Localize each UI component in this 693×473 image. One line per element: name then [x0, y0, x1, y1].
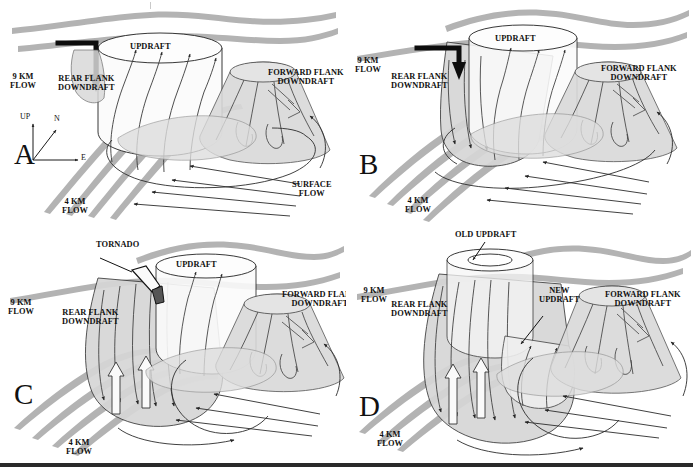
label-flow-4km: 4 KM FLOW	[377, 430, 403, 449]
panel-d: D OLD UPDRAFT NEW UPDRAFT REAR FLANK DOW…	[347, 228, 693, 458]
label-updraft: UPDRAFT	[130, 42, 171, 51]
panel-letter-b: B	[359, 150, 378, 179]
panel-letter-a: A	[14, 140, 35, 169]
label-rear-flank-downdraft: REAR FLANK DOWNDRAFT	[58, 74, 115, 93]
label-flow-9km: 9 KM FLOW	[361, 286, 387, 305]
figure-supercell-evolution: A UPDRAFT REAR FLANK DOWNDRAFT FORWARD F…	[0, 0, 693, 473]
label-flow-4km: 4 KM FLOW	[405, 196, 431, 215]
label-tornado: TORNADO	[96, 240, 139, 249]
label-forward-flank-downdraft: FORWARD FLANK DOWNDRAFT	[282, 290, 346, 309]
label-flow-9km: 9 KM FLOW	[355, 56, 381, 75]
label-flow-4km: 4 KM FLOW	[62, 197, 88, 216]
compass-label-north: N	[54, 114, 60, 123]
label-flow-4km: 4 KM FLOW	[66, 438, 92, 457]
compass-label-east: E	[81, 153, 86, 162]
label-old-updraft: OLD UPDRAFT	[455, 230, 516, 239]
label-flow-9km: 9 KM FLOW	[8, 298, 34, 317]
panel-letter-d: D	[359, 392, 380, 421]
label-forward-flank-downdraft: FORWARD FLANK DOWNDRAFT	[268, 68, 344, 87]
tornado-pointer	[100, 258, 132, 272]
label-new-updraft: NEW UPDRAFT	[539, 286, 580, 305]
label-rear-flank-downdraft: REAR FLANK DOWNDRAFT	[391, 72, 448, 91]
label-rear-flank-downdraft: REAR FLANK DOWNDRAFT	[62, 308, 119, 327]
panel-c-graphic	[0, 228, 346, 458]
compass-label-up: UP	[20, 112, 30, 121]
label-flow-9km: 9 KM FLOW	[10, 72, 36, 91]
panel-letter-c: C	[14, 380, 33, 409]
bottom-rule	[0, 463, 693, 467]
label-forward-flank-downdraft: FORWARD FLANK DOWNDRAFT	[601, 64, 677, 83]
label-rear-flank-downdraft: REAR FLANK DOWNDRAFT	[391, 300, 448, 319]
label-forward-flank-downdraft: FORWARD FLANK DOWNDRAFT	[605, 290, 681, 309]
panel-c: C TORNADO UPDRAFT REAR FLANK DOWNDRAFT F…	[0, 228, 346, 458]
compass-rose	[33, 124, 78, 160]
label-surface-flow: SURFACE FLOW	[292, 180, 332, 199]
panel-a: A UPDRAFT REAR FLANK DOWNDRAFT FORWARD F…	[0, 0, 346, 230]
panel-b: B UPDRAFT REAR FLANK DOWNDRAFT FORWARD F…	[347, 0, 693, 230]
panel-d-graphic	[347, 228, 693, 458]
label-updraft: UPDRAFT	[495, 34, 536, 43]
label-updraft: UPDRAFT	[176, 260, 217, 269]
